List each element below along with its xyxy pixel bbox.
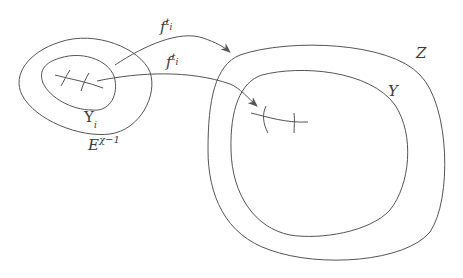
region-Y-outline <box>231 70 408 236</box>
label-f-top: fti <box>160 20 172 37</box>
label-upsilon: Υi <box>84 110 97 128</box>
curve-in-upsilon <box>55 75 103 88</box>
diagram-svg <box>0 0 463 278</box>
region-Z-outline <box>208 45 445 260</box>
region-upsilon-outline <box>42 55 116 110</box>
arrow-map-bottom <box>97 74 257 106</box>
label-Z: Z <box>416 46 426 61</box>
curve-in-Y <box>251 113 308 122</box>
label-E: Eχ−1 <box>88 138 120 153</box>
label-f-bottom: fti <box>166 55 178 72</box>
tick-mark <box>264 106 268 133</box>
label-Y: Y <box>388 84 398 99</box>
diagram-canvas: fti fti Υi Eχ−1 Z Y <box>0 0 463 278</box>
